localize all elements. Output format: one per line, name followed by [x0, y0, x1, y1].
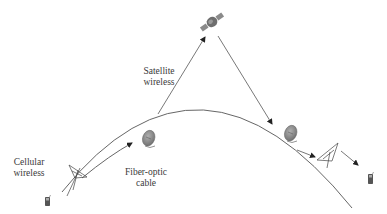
- satellite-label-line2: wireless: [131, 77, 187, 88]
- satellite-dish-icon: [282, 124, 299, 143]
- satellite-dish-icon: [140, 129, 157, 148]
- tower-to-phone-arrow: [341, 151, 358, 165]
- network-diagram: [0, 0, 387, 214]
- fiber-optic-cable-label: Fiber-optic cable: [116, 167, 176, 189]
- fiber-optic-curve: [62, 110, 352, 208]
- cell-tower-icon: [67, 165, 87, 196]
- mobile-phone-icon: [45, 195, 51, 206]
- fiber-label-line1: Fiber-optic: [116, 167, 176, 178]
- fiber-label-line2: cable: [116, 178, 176, 189]
- satellite-icon: [198, 10, 225, 33]
- cellular-label-line1: Cellular: [4, 157, 54, 168]
- cell-tower-icon: [317, 143, 338, 168]
- cellular-wireless-label: Cellular wireless: [4, 157, 54, 179]
- cellular-label-line2: wireless: [4, 168, 54, 179]
- downlink-arrow: [218, 36, 272, 124]
- satellite-wireless-label: Satellite wireless: [131, 66, 187, 88]
- mobile-phone-icon: [368, 172, 374, 184]
- satellite-label-line1: Satellite: [131, 66, 187, 77]
